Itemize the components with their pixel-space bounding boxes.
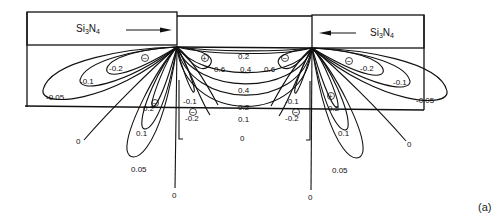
svg-text:0.2: 0.2 xyxy=(328,104,340,113)
plus-sign-icon: + xyxy=(202,54,209,63)
svg-text:0.1: 0.1 xyxy=(238,115,250,124)
svg-text:0.05: 0.05 xyxy=(131,165,147,174)
svg-text:0: 0 xyxy=(172,191,177,200)
center-contour-labels: 0.2 0.6 0.4 0.6 0.4 0.2 0.1 0 xyxy=(214,52,276,143)
svg-text:-0.2: -0.2 xyxy=(360,64,374,73)
svg-text:-0.05: -0.05 xyxy=(46,93,65,102)
svg-text:-0.1: -0.1 xyxy=(80,77,94,86)
svg-text:+: + xyxy=(328,92,333,101)
svg-text:−: − xyxy=(153,99,158,108)
svg-text:-0.2: -0.2 xyxy=(109,64,123,73)
svg-text:0.05: 0.05 xyxy=(332,166,348,175)
svg-text:0.2: 0.2 xyxy=(238,103,250,112)
left-nitride-label: Si3N4 xyxy=(76,23,100,35)
svg-text:0.2: 0.2 xyxy=(238,52,250,61)
minus-sign-icon: − xyxy=(282,54,289,63)
svg-text:-0.1: -0.1 xyxy=(183,97,197,106)
svg-text:0: 0 xyxy=(76,137,81,146)
contour-diagram: Si3N4 Si3N4 xyxy=(0,0,500,223)
svg-text:-0.1: -0.1 xyxy=(393,78,407,87)
svg-text:−: − xyxy=(294,108,299,117)
svg-text:-0.05: -0.05 xyxy=(416,96,435,105)
svg-text:0.1: 0.1 xyxy=(338,129,350,138)
arrow-right-icon xyxy=(126,28,172,33)
stress-contour-figure: Si3N4 Si3N4 xyxy=(0,0,500,223)
svg-text:+: + xyxy=(202,54,207,63)
svg-text:0.1: 0.1 xyxy=(136,129,148,138)
svg-text:0: 0 xyxy=(407,140,412,149)
minus-sign-icon: − xyxy=(346,57,353,66)
svg-text:−: − xyxy=(191,108,196,117)
svg-text:−: − xyxy=(283,54,288,63)
minus-sign-icon: − xyxy=(152,99,159,108)
minus-sign-icon: − xyxy=(142,54,149,63)
svg-text:-0.1: -0.1 xyxy=(285,97,299,106)
panel-label: (a) xyxy=(478,201,491,213)
plus-sign-icon: + xyxy=(328,92,335,101)
svg-text:0.6: 0.6 xyxy=(214,65,226,74)
svg-text:−: − xyxy=(143,54,148,63)
svg-text:0: 0 xyxy=(308,193,313,202)
svg-text:0.4: 0.4 xyxy=(238,86,250,95)
svg-text:0: 0 xyxy=(240,134,245,143)
right-nitride-label: Si3N4 xyxy=(370,27,394,39)
arrow-left-icon xyxy=(319,31,356,36)
left-nitride-region xyxy=(27,12,312,45)
svg-text:0.6: 0.6 xyxy=(264,65,276,74)
center-interface-line xyxy=(177,47,312,48)
svg-text:−: − xyxy=(347,57,352,66)
svg-text:0.4: 0.4 xyxy=(240,65,252,74)
